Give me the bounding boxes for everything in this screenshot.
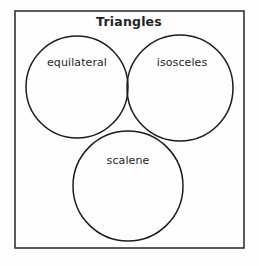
venn-diagram-svg: Triangles equilateral isosceles scalene bbox=[0, 0, 259, 266]
circle-equilateral[interactable] bbox=[26, 36, 128, 138]
circle-isosceles[interactable] bbox=[127, 35, 233, 141]
circle-label-scalene: scalene bbox=[107, 154, 150, 167]
circle-label-isosceles: isosceles bbox=[157, 56, 208, 69]
circle-label-equilateral: equilateral bbox=[47, 56, 107, 69]
diagram-title: Triangles bbox=[96, 14, 162, 29]
circle-scalene[interactable] bbox=[73, 131, 183, 241]
venn-diagram-canvas: Triangles equilateral isosceles scalene bbox=[0, 0, 259, 266]
